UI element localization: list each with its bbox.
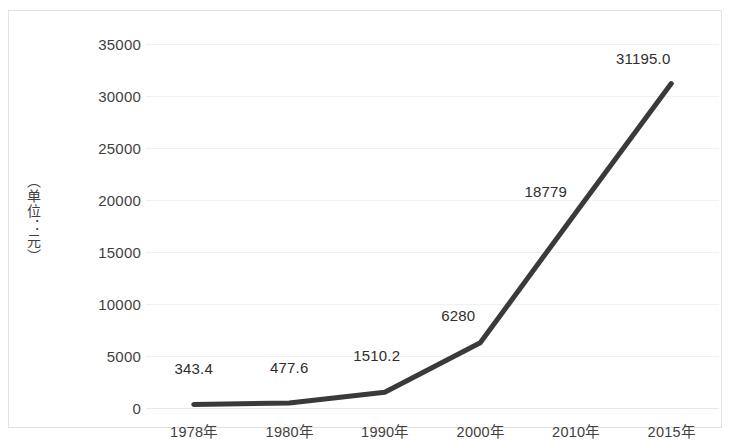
data-point-label: 18779 (524, 182, 567, 199)
data-point-labels: 343.4477.61510.262801877931195.0 (9, 11, 730, 443)
data-point-label: 1510.2 (353, 347, 400, 364)
data-point-label: 477.6 (270, 359, 309, 376)
chart-frame: 05000100001500020000250003000035000 （单位：… (8, 10, 722, 428)
data-point-label: 343.4 (174, 360, 213, 377)
data-point-label: 6280 (441, 306, 475, 323)
data-point-label: 31195.0 (616, 49, 671, 66)
